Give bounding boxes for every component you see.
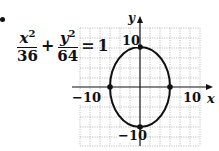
x-axis-arrow-icon <box>206 84 213 90</box>
y-tick-10: 10 <box>122 33 140 48</box>
x-axis-label: x <box>206 91 215 106</box>
y-tick-neg10: −10 <box>118 128 147 143</box>
y-axis-label: y <box>127 11 136 25</box>
x-tick-10: 10 <box>183 90 201 105</box>
y-axis-arrow-icon <box>137 16 143 23</box>
x-tick-neg10: −10 <box>72 90 101 105</box>
ellipse-graph: 10 −10 −10 10 x y <box>0 0 219 151</box>
